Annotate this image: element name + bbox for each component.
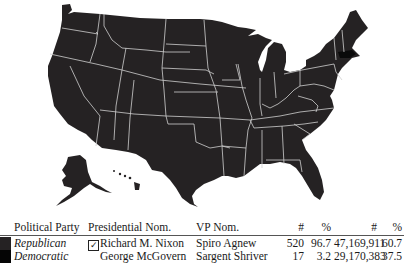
presidential-nominee-name: Richard M. Nixon [100,237,184,249]
header-popular-pct: % [378,219,402,235]
popular-votes: 47,169,911 [334,237,377,250]
popular-pct: 60.7 [378,237,402,250]
legend-row-republican: Republican ✓Richard M. Nixon Spiro Agnew… [0,237,404,250]
header-electoral-pct: % [306,219,331,235]
electoral-pct: 3.2 [306,250,331,263]
election-legend-table: Political Party Presidential Nom. VP Nom… [0,219,404,263]
hawaii-island [119,173,121,175]
alaska [56,155,112,206]
presidential-nominee-name: George McGovern [88,250,186,263]
vp-nominee: Spiro Agnew [196,237,256,250]
electoral-votes: 17 [272,250,304,263]
electoral-votes: 520 [272,237,304,250]
popular-votes: 29,170,383 [334,250,377,263]
party-color-swatch [0,237,11,250]
header-electoral-count: # [272,219,304,235]
us-election-map [0,0,404,212]
hawaii-big-island [134,182,140,190]
legend-row-democratic: Democratic George McGovern Sargent Shriv… [0,250,404,263]
state-alaska [56,155,112,206]
us-mainland-shape [48,4,368,207]
header-presidential: Presidential Nom. [88,219,171,235]
legend-header-row: Political Party Presidential Nom. VP Nom… [0,219,404,236]
electoral-pct: 96.7 [306,237,331,250]
vp-nominee: Sargent Shriver [196,250,268,263]
popular-pct: 37.5 [378,250,402,263]
header-party: Political Party [14,219,79,235]
hawaii [113,170,140,190]
party-color-swatch [0,250,11,263]
header-vp: VP Nom. [196,219,239,235]
hawaii-island [124,175,126,177]
party-name: Democratic [14,250,68,263]
header-popular-count: # [334,219,377,235]
contiguous-us [48,4,368,207]
presidential-nominee: ✓Richard M. Nixon [88,237,184,250]
party-name: Republican [14,237,66,250]
hawaii-island [113,170,115,172]
hawaii-island [129,177,132,180]
